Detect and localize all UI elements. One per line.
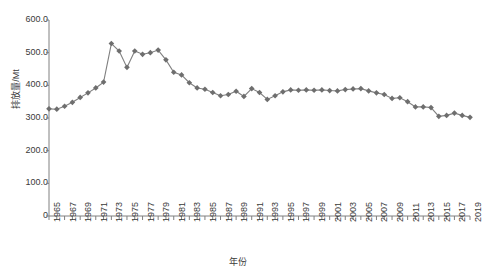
x-tick-label: 1995: [287, 202, 296, 222]
x-tick-label: 1997: [302, 202, 311, 222]
x-tick-label: 2011: [412, 203, 421, 222]
x-tick-label: 2017: [458, 202, 467, 222]
x-tick-label: 1969: [84, 202, 93, 222]
x-tick-label: 1977: [147, 202, 156, 222]
x-tick-label: 2013: [427, 202, 436, 222]
x-tick-label: 1987: [225, 202, 234, 222]
x-axis-title: 年份: [0, 255, 475, 268]
x-tick-label: 1975: [131, 202, 140, 222]
x-tick-label: 2019: [474, 202, 483, 222]
x-tick-label: 1981: [178, 202, 187, 222]
x-tick-label: 1965: [53, 202, 62, 222]
x-tick-label: 1985: [209, 202, 218, 222]
x-tick-label: 2005: [365, 202, 374, 222]
x-tick-label: 2015: [443, 202, 452, 222]
x-tick-label: 1979: [162, 202, 171, 222]
x-tick-label: 1983: [193, 202, 202, 222]
x-tick-label: 1993: [271, 202, 280, 222]
x-tick-label: 1971: [100, 202, 109, 222]
x-tick-label: 1989: [240, 202, 249, 222]
x-tick-label: 1973: [115, 202, 124, 222]
x-tick-label: 2003: [349, 202, 358, 222]
x-tick-label: 2009: [396, 202, 405, 222]
x-tick-label: 2007: [380, 202, 389, 222]
x-tick-label: 1967: [69, 202, 78, 222]
x-tick-label: 1991: [256, 202, 265, 222]
x-tick-label: 2001: [334, 202, 343, 222]
x-tick-label: 1999: [318, 202, 327, 222]
